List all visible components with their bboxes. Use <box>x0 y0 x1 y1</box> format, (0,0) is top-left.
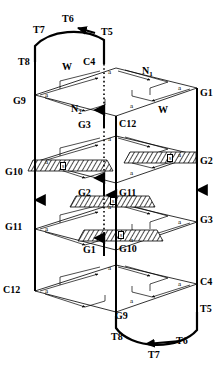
label-N2-sub: 2 <box>78 108 82 116</box>
label-T6-bottom: T6 <box>176 336 188 346</box>
edge-label-a: a <box>130 103 133 110</box>
edge-label-a: a <box>130 170 133 177</box>
diagram-canvas <box>0 0 221 369</box>
label-G11-center: G11 <box>119 188 136 198</box>
hatch-label-s: s <box>60 162 66 170</box>
edge-label-a: a <box>108 204 111 211</box>
lattice-diagram: T6 T7 T5 T8 G9 G10 G11 C12 G1 G2 G3 C4 T… <box>0 0 221 369</box>
label-T5-top: T5 <box>101 27 113 37</box>
label-T8-top: T8 <box>18 57 30 67</box>
label-C4-center: C4 <box>83 57 95 67</box>
edge-label-a: a <box>178 85 181 92</box>
label-G10-center: G10 <box>119 244 137 254</box>
label-N1-sub: 1 <box>149 70 153 78</box>
label-T8-bottom: T8 <box>111 332 123 342</box>
edge-label-a: a <box>45 226 48 233</box>
label-G2-right: G2 <box>200 156 213 166</box>
label-N1: N1 <box>142 66 153 79</box>
label-G1-center: G1 <box>83 245 96 255</box>
edge-label-a: a <box>178 152 181 159</box>
edge-label-a: a <box>130 298 133 305</box>
label-T7-bottom: T7 <box>148 350 160 360</box>
label-W-mid: W <box>158 105 168 115</box>
label-G9-left: G9 <box>13 96 26 106</box>
edge-label-a: a <box>45 92 48 99</box>
label-G9-center: G9 <box>115 311 128 321</box>
label-T6-top: T6 <box>62 14 74 24</box>
hatch-label-s: s <box>118 231 124 239</box>
label-N2: N2 <box>71 104 82 117</box>
edge-label-a: a <box>45 159 48 166</box>
hatch-label-s: s <box>167 154 173 162</box>
label-G3-right: G3 <box>200 215 213 225</box>
label-G10-left: G10 <box>5 167 23 177</box>
label-G11-left: G11 <box>5 222 22 232</box>
label-G3-center: G3 <box>78 120 91 130</box>
label-C12-left: C12 <box>3 285 20 295</box>
edge-label-a: a <box>45 288 48 295</box>
edge-label-a: a <box>108 265 111 272</box>
edge-label-a: a <box>178 281 181 288</box>
label-C4-right: C4 <box>200 277 212 287</box>
edge-label-a: a <box>108 136 111 143</box>
edge-label-a: a <box>178 219 181 226</box>
layer-1 <box>35 68 197 116</box>
label-W-top: W <box>62 62 72 72</box>
edge-label-a: a <box>130 237 133 244</box>
label-T5-bottom: T5 <box>200 304 212 314</box>
edge-label-a: a <box>108 69 111 76</box>
label-T7-top: T7 <box>33 25 45 35</box>
label-G1-right: G1 <box>200 88 213 98</box>
label-G2-center: G2 <box>78 188 91 198</box>
hatch-label-s: s <box>110 197 116 205</box>
label-C12-center: C12 <box>119 119 136 129</box>
